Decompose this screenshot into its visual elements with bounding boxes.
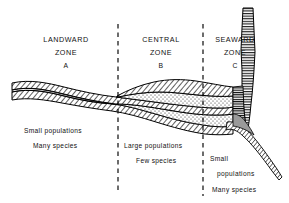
- zone-letter-central: B: [125, 62, 197, 69]
- zone-sublabel-central: ZONE: [125, 48, 197, 57]
- zone-sublabel-seaward: ZONE: [206, 48, 264, 57]
- zone-label-central: CENTRAL: [125, 36, 197, 44]
- zone-letter-landward: A: [26, 62, 106, 69]
- note-seaward-populations: populations: [217, 170, 255, 177]
- zone-letter-seaward: C: [206, 62, 264, 69]
- figure-canvas: LANDWARD ZONE A CENTRAL ZONE B SEAWARD Z…: [0, 0, 289, 203]
- note-seaward-species: Many species: [212, 186, 257, 193]
- seaward-vertical-column: [233, 8, 255, 130]
- note-central-species: Few species: [136, 157, 177, 164]
- note-central-populations: Large populations: [124, 142, 182, 149]
- zone-label-landward: LANDWARD: [26, 36, 106, 44]
- note-landward-species: Many species: [33, 142, 78, 149]
- note-landward-populations: Small populations: [24, 127, 82, 134]
- note-seaward-small: Small: [210, 155, 228, 162]
- zone-sublabel-landward: ZONE: [26, 48, 106, 57]
- zone-label-seaward: SEAWARD: [206, 36, 264, 44]
